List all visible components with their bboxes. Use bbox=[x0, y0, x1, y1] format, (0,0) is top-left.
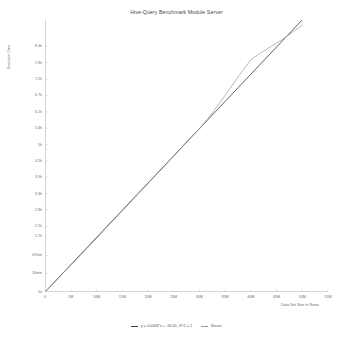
series-line-server bbox=[45, 25, 302, 292]
y-tick-label: 7.8h bbox=[18, 61, 42, 65]
y-tick-label: 0s bbox=[18, 290, 42, 294]
y-tick-label: 2.8h bbox=[18, 208, 42, 212]
x-axis-title: Data Set Size in Rows bbox=[255, 303, 345, 307]
legend-label-trendline: y = 0.0006*x + -94.61, R^2 = 1 bbox=[141, 324, 193, 328]
x-tick-label: 35M bbox=[212, 295, 238, 299]
legend-item-server[interactable]: Server bbox=[201, 324, 222, 328]
x-tick-label: 0 bbox=[32, 295, 58, 299]
y-tick-label: 5h bbox=[18, 143, 42, 147]
chart-title: Hive-Query Benchmark Module Server bbox=[0, 9, 353, 15]
y-axis-title: Execution Time bbox=[7, 32, 11, 82]
x-tick-label: 40M bbox=[238, 295, 264, 299]
x-tick-label: 10M bbox=[83, 295, 109, 299]
chart-legend: y = 0.0006*x + -94.61, R^2 = 1 Server bbox=[0, 324, 353, 328]
series-layer bbox=[45, 20, 302, 292]
y-tick-label: 5.6h bbox=[18, 126, 42, 130]
legend-swatch-trendline bbox=[131, 326, 138, 327]
x-tick-label: 20M bbox=[135, 295, 161, 299]
legend-item-trendline[interactable]: y = 0.0006*x + -94.61, R^2 = 1 bbox=[131, 324, 192, 328]
y-tick-label: 1.7h bbox=[18, 234, 42, 238]
x-tick-label: 25M bbox=[161, 295, 187, 299]
y-tick-label: 67min bbox=[18, 253, 42, 257]
legend-swatch-server bbox=[201, 326, 208, 327]
chart-container: Hive-Query Benchmark Module Server Execu… bbox=[0, 0, 353, 342]
y-tick-label: 4.5h bbox=[18, 159, 42, 163]
x-tick-label: 50M bbox=[289, 295, 315, 299]
x-tick-label: 55M bbox=[315, 295, 341, 299]
x-tick-label: 5M bbox=[58, 295, 84, 299]
y-tick-label: 34min bbox=[18, 271, 42, 275]
y-tick-label: 8.3h bbox=[18, 44, 42, 48]
plot-area bbox=[45, 20, 328, 292]
y-tick-label: 3.3h bbox=[18, 192, 42, 196]
plot-svg bbox=[45, 20, 328, 292]
x-tick-label: 15M bbox=[109, 295, 135, 299]
x-tick-label: 30M bbox=[186, 295, 212, 299]
x-tick-label: 45M bbox=[264, 295, 290, 299]
legend-label-server: Server bbox=[211, 324, 222, 328]
y-tick-label: 3.9h bbox=[18, 175, 42, 179]
y-tick-label: 2.2h bbox=[18, 224, 42, 228]
y-tick-label: 6.7h bbox=[18, 93, 42, 97]
y-tick-label: 6.1h bbox=[18, 110, 42, 114]
y-tick-label: 7.2h bbox=[18, 77, 42, 81]
